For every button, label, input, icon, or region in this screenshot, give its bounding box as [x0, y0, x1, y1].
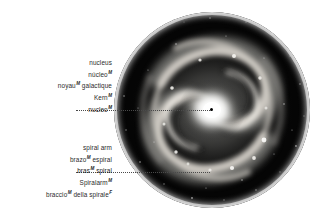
- label-spiral-arm-en: spiral arm: [0, 143, 112, 153]
- label-nucleus-fr: noyauM galactique: [0, 79, 112, 91]
- label-nucleus-it: nucleoM: [0, 103, 112, 115]
- label-suffix: galactique: [80, 82, 112, 89]
- gender-marker-secondary: F: [109, 190, 112, 195]
- label-spiral-arm-it: braccioM della spiraleF: [0, 188, 112, 200]
- gender-marker: M: [108, 93, 112, 98]
- callout-spiral-arm: spiral arm brazoM espiral brasM spiral S…: [0, 143, 112, 199]
- label-spiral-arm-fr: brasM spiral: [0, 164, 112, 176]
- gender-marker: M: [108, 178, 112, 183]
- label-spiral-arm-de: SpiralarmM: [0, 176, 112, 188]
- label-suffix: spiral: [94, 167, 112, 174]
- callout-nucleus: nucleus núcleoM noyauM galactique KernM …: [0, 58, 112, 114]
- label-nucleus-de: KernM: [0, 91, 112, 103]
- label-spiral-arm-es: brazoM espiral: [0, 153, 112, 165]
- label-suffix: della spirale: [72, 191, 109, 198]
- label-nucleus-es: núcleoM: [0, 68, 112, 80]
- label-suffix: espiral: [91, 156, 112, 163]
- label-nucleus-en: nucleus: [0, 58, 112, 68]
- figure-canvas: nucleus núcleoM noyauM galactique KernM …: [0, 0, 312, 218]
- gender-marker: M: [108, 105, 112, 110]
- gender-marker: M: [108, 70, 112, 75]
- leader-terminus-nucleus: [210, 108, 213, 111]
